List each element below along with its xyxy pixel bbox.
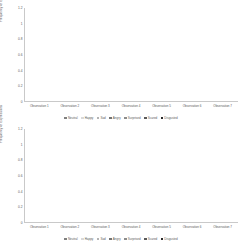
x-tick-label: Observation 7 — [213, 225, 232, 229]
bar-column[interactable]: Observation 6 — [186, 8, 199, 102]
legend-label: Surprised — [128, 116, 141, 120]
x-tick-label: Observation 3 — [91, 225, 110, 229]
bar-column[interactable]: Observation 5 — [155, 129, 168, 223]
legend-item-happy[interactable]: Happy — [81, 237, 93, 241]
legend-swatch-icon — [81, 238, 84, 241]
x-tick-label: Observation 1 — [30, 104, 49, 108]
legend-bottom: NeutralHappySadAngrySurprisedScaredDisgu… — [0, 237, 242, 241]
y-tick-label: 1 — [21, 22, 23, 26]
bar-column[interactable]: Observation 3 — [94, 8, 107, 102]
legend-swatch-icon — [64, 238, 67, 241]
legend-swatch-icon — [97, 238, 100, 241]
x-tick-label: Observation 5 — [152, 225, 171, 229]
legend-label: Angry — [113, 237, 121, 241]
legend-label: Disgusted — [164, 237, 177, 241]
y-tick-label: 0.2 — [18, 205, 22, 209]
legend-item-angry[interactable]: Angry — [109, 237, 120, 241]
x-tick-label: Observation 5 — [152, 104, 171, 108]
bar-column[interactable]: Observation 4 — [124, 8, 137, 102]
legend-item-scared[interactable]: Scared — [144, 116, 157, 120]
legend-item-disgusted[interactable]: Disgusted — [161, 237, 178, 241]
plot-area-top: Observation 1Observation 2Observation 3O… — [24, 8, 238, 102]
x-tick-label: Observation 4 — [122, 104, 141, 108]
bar-group-top: Observation 1Observation 2Observation 3O… — [24, 8, 238, 102]
legend-swatch-icon — [81, 117, 84, 120]
bar-column[interactable]: Observation 2 — [63, 129, 76, 223]
legend-item-neutral[interactable]: Neutral — [64, 237, 77, 241]
legend-item-sad[interactable]: Sad — [97, 116, 106, 120]
x-tick-label: Observation 3 — [91, 104, 110, 108]
x-tick-label: Observation 6 — [183, 104, 202, 108]
legend-label: Disgusted — [164, 116, 177, 120]
legend-item-happy[interactable]: Happy — [81, 116, 93, 120]
bar-column[interactable]: Observation 5 — [155, 8, 168, 102]
legend-swatch-icon — [124, 117, 127, 120]
legend-label: Sad — [100, 116, 105, 120]
bar-column[interactable]: Observation 6 — [186, 129, 199, 223]
legend-label: Scared — [148, 116, 158, 120]
bar-column[interactable]: Observation 4 — [124, 129, 137, 223]
y-tick-label: 0.8 — [18, 158, 22, 162]
x-tick-label: Observation 7 — [213, 104, 232, 108]
legend-top: NeutralHappySadAngrySurprisedScaredDisgu… — [0, 116, 242, 120]
x-tick-label: Observation 2 — [61, 225, 80, 229]
legend-swatch-icon — [97, 117, 100, 120]
y-tick-label: 0 — [21, 221, 23, 225]
legend-item-surprised[interactable]: Surprised — [124, 237, 140, 241]
y-tick-label: 0.8 — [18, 37, 22, 41]
bar-column[interactable]: Observation 1 — [33, 129, 46, 223]
y-axis-label-top: Frequency of Expressions — [0, 0, 3, 22]
y-tick-label: 0.4 — [18, 69, 22, 73]
bar-column[interactable]: Observation 3 — [94, 129, 107, 223]
bar-column[interactable]: Observation 1 — [33, 8, 46, 102]
legend-swatch-icon — [109, 238, 112, 241]
y-tick-label: 0.6 — [18, 174, 22, 178]
legend-swatch-icon — [161, 117, 164, 120]
x-tick-label: Observation 2 — [61, 104, 80, 108]
legend-swatch-icon — [124, 238, 127, 241]
legend-swatch-icon — [109, 117, 112, 120]
chart-top: Frequency of Expressions Observation 1Ob… — [0, 0, 242, 121]
legend-item-sad[interactable]: Sad — [97, 237, 106, 241]
y-tick-label: 1.2 — [18, 6, 22, 10]
x-tick-label: Observation 6 — [183, 225, 202, 229]
y-tick-label: 0 — [21, 100, 23, 104]
y-axis-label-bottom: Frequency of Expressions — [0, 87, 3, 143]
y-tick-label: 0.6 — [18, 53, 22, 57]
bar-column[interactable]: Observation 7 — [216, 8, 229, 102]
y-tick-label: 0.4 — [18, 190, 22, 194]
legend-label: Happy — [85, 116, 94, 120]
legend-label: Happy — [85, 237, 94, 241]
legend-label: Surprised — [128, 237, 141, 241]
legend-swatch-icon — [64, 117, 67, 120]
legend-swatch-icon — [144, 117, 147, 120]
bar-group-bottom: Observation 1Observation 2Observation 3O… — [24, 129, 238, 223]
y-tick-label: 1.2 — [18, 127, 22, 131]
bar-column[interactable]: Observation 7 — [216, 129, 229, 223]
legend-item-surprised[interactable]: Surprised — [124, 116, 140, 120]
bar-column[interactable]: Observation 2 — [63, 8, 76, 102]
legend-label: Sad — [100, 237, 105, 241]
x-tick-label: Observation 4 — [122, 225, 141, 229]
legend-label: Neutral — [68, 237, 78, 241]
legend-item-disgusted[interactable]: Disgusted — [161, 116, 178, 120]
y-tick-label: 1 — [21, 143, 23, 147]
y-tick-label: 0.2 — [18, 84, 22, 88]
x-tick-label: Observation 1 — [30, 225, 49, 229]
stacked-bar-figure: Frequency of Expressions Observation 1Ob… — [0, 0, 242, 243]
legend-item-angry[interactable]: Angry — [109, 116, 120, 120]
legend-item-neutral[interactable]: Neutral — [64, 116, 77, 120]
legend-item-scared[interactable]: Scared — [144, 237, 157, 241]
legend-swatch-icon — [161, 238, 164, 241]
legend-label: Scared — [148, 237, 158, 241]
plot-area-bottom: Observation 1Observation 2Observation 3O… — [24, 129, 238, 223]
legend-label: Angry — [113, 116, 121, 120]
legend-swatch-icon — [144, 238, 147, 241]
chart-bottom: Frequency of Expressions Observation 1Ob… — [0, 121, 242, 242]
legend-label: Neutral — [68, 116, 78, 120]
